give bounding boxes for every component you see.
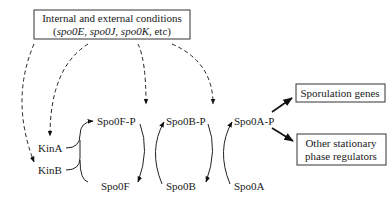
node-spo0b: Spo0B xyxy=(166,180,196,192)
curve-spo0a-to-spo0a-p xyxy=(223,122,232,184)
node-spo0a: Spo0A xyxy=(234,180,265,192)
dashed-arrow-to-kinb xyxy=(22,44,34,162)
node-spo0a-p: Spo0A-P xyxy=(234,115,274,127)
node-spo0f: Spo0F xyxy=(101,180,130,192)
conditions-title: Internal and external conditions xyxy=(42,12,182,24)
dashed-arrow-to-kina xyxy=(50,44,88,136)
arrow-to-sporulation-genes xyxy=(272,98,292,112)
phosphotransfer-curves xyxy=(66,121,232,184)
phosphorelay-diagram: Internal and external conditions (spo0E,… xyxy=(0,0,389,201)
curve-spo0f-p-to-spo0f xyxy=(138,124,145,182)
conditions-genes: (spo0E, spo0J, spo0K, etc) xyxy=(53,25,171,38)
arrow-to-other-regulators xyxy=(272,128,293,141)
curve-spo0b-to-spo0b-p xyxy=(155,122,164,184)
dashed-arrow-to-spo0f-p xyxy=(138,44,146,104)
curve-spo0b-p-to-spo0b xyxy=(206,124,213,182)
sporulation-genes-label: Sporulation genes xyxy=(300,87,379,99)
dashed-arrow-to-spo0b-p xyxy=(172,44,213,104)
node-spo0f-p: Spo0F-P xyxy=(97,115,136,127)
node-kina: KinA xyxy=(38,142,63,154)
other-regulators-box: Other stationary phase regulators xyxy=(297,134,386,165)
node-kinb: KinB xyxy=(38,164,62,176)
conditions-box: Internal and external conditions (spo0E,… xyxy=(34,10,190,39)
other-regulators-line1: Other stationary xyxy=(305,137,377,149)
sporulation-genes-box: Sporulation genes xyxy=(296,84,385,102)
node-spo0b-p: Spo0B-P xyxy=(166,115,206,127)
other-regulators-line2: phase regulators xyxy=(305,150,377,162)
